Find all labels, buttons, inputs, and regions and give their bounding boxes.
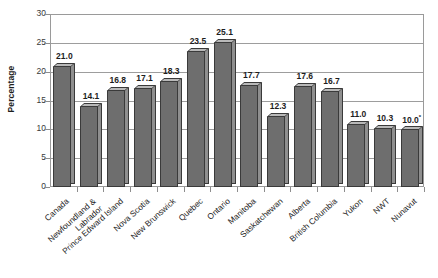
bar-side-face: [178, 78, 182, 184]
x-tick-13: [424, 187, 425, 192]
data-label-0: 21.0: [48, 51, 80, 61]
category-label-13: Nunavut: [389, 196, 419, 224]
x-tick-3: [157, 187, 158, 192]
bar-front-face: [401, 129, 419, 187]
category-label-11: Yukon: [341, 196, 365, 219]
category-label-line1: Quebec: [176, 196, 204, 223]
y-tick-label-15: 15: [22, 95, 46, 105]
category-label-line1: British Columbia: [287, 196, 339, 244]
category-label-line1: NWT: [371, 196, 392, 216]
category-label-line1: Nunavut: [389, 196, 419, 224]
bar-side-face: [205, 48, 209, 184]
bar-side-face: [419, 126, 423, 184]
bar-front-face: [374, 128, 392, 187]
bar-front-face: [53, 66, 71, 187]
bar-saskatchewan: [267, 112, 289, 187]
bar-yukon: [347, 120, 369, 187]
x-tick-0: [77, 187, 78, 192]
bar-top-face: [294, 83, 316, 87]
bar-newfoundland-labrador: [80, 102, 102, 187]
data-label-8: 12.3: [262, 101, 294, 111]
bar-front-face: [267, 116, 285, 187]
data-label-4: 18.3: [155, 66, 187, 76]
bar-front-face: [214, 42, 232, 187]
bar-quebec: [187, 47, 209, 187]
bar-alberta: [294, 82, 316, 187]
bar-front-face: [347, 124, 365, 187]
x-tick-4: [184, 187, 185, 192]
x-tick-1: [103, 187, 104, 192]
x-tick-6: [237, 187, 238, 192]
bar-british-columbia: [321, 87, 343, 187]
y-tick-label-30: 30: [22, 8, 46, 18]
bar-nunavut: [401, 125, 423, 187]
category-label-5: Quebec: [176, 196, 204, 223]
bar-front-face: [187, 51, 205, 187]
bar-front-face: [80, 106, 98, 187]
y-axis-title: Percentage: [6, 49, 16, 129]
bar-nova-scotia: [134, 84, 156, 187]
bar-manitoba: [240, 81, 262, 187]
bar-side-face: [152, 85, 156, 184]
category-label-12: NWT: [371, 196, 392, 216]
bar-side-face: [258, 82, 262, 184]
bar-chart: Percentage 051015202530 21.014.116.817.1…: [0, 0, 438, 278]
bar-side-face: [125, 87, 129, 184]
bar-side-face: [232, 39, 236, 184]
bar-side-face: [339, 88, 343, 184]
y-tick-label-20: 20: [22, 66, 46, 76]
bar-front-face: [107, 90, 125, 187]
x-tick-12: [397, 187, 398, 192]
bar-new-brunswick: [160, 77, 182, 187]
bar-side-face: [312, 83, 316, 184]
bar-canada: [53, 62, 75, 187]
data-label-13: 10.0*: [396, 114, 428, 125]
bar-side-face: [285, 113, 289, 184]
category-label-line1: Yukon: [341, 196, 365, 219]
bar-side-face: [71, 63, 75, 184]
bar-front-face: [160, 81, 178, 187]
y-tick-mark-0: [44, 187, 50, 188]
bar-ontario: [214, 38, 236, 187]
x-tick-9: [317, 187, 318, 192]
category-label-10: British Columbia: [287, 196, 339, 244]
data-label-6: 25.1: [209, 27, 241, 37]
bar-side-face: [98, 103, 102, 184]
bar-side-face: [365, 121, 369, 184]
data-label-7: 17.7: [235, 70, 267, 80]
data-label-10: 16.7: [316, 76, 348, 86]
bar-front-face: [134, 88, 152, 187]
y-tick-label-25: 25: [22, 37, 46, 47]
bar-top-face: [374, 125, 396, 129]
x-tick-10: [344, 187, 345, 192]
y-tick-label-0: 0: [22, 181, 46, 191]
bar-front-face: [240, 85, 258, 187]
data-label-1: 14.1: [75, 91, 107, 101]
bar-top-face: [320, 88, 342, 92]
bar-prince-edward-island: [107, 86, 129, 187]
bar-nwt: [374, 124, 396, 187]
x-tick-7: [264, 187, 265, 192]
bar-front-face: [321, 91, 339, 187]
x-tick-5: [210, 187, 211, 192]
data-label-5: 23.5: [182, 36, 214, 46]
y-tick-label-10: 10: [22, 123, 46, 133]
x-tick-8: [290, 187, 291, 192]
bar-side-face: [392, 125, 396, 184]
y-tick-label-5: 5: [22, 152, 46, 162]
bar-front-face: [294, 86, 312, 187]
x-tick-2: [130, 187, 131, 192]
x-tick-11: [371, 187, 372, 192]
